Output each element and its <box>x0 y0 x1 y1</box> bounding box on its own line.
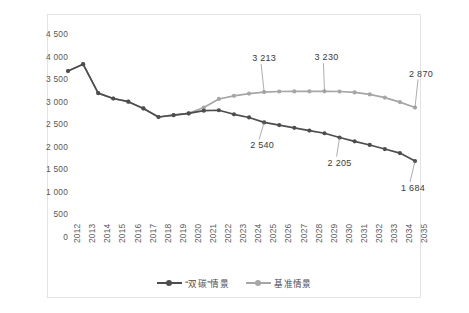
data-point-marker <box>111 96 115 100</box>
data-point-marker <box>232 112 236 116</box>
data-label: 2 205 <box>328 158 352 168</box>
data-point-marker <box>353 139 357 143</box>
data-point-marker <box>277 89 281 93</box>
data-point-marker <box>292 89 296 93</box>
legend-item[interactable]: 基准情景 <box>246 277 312 289</box>
annotation-leader-line <box>259 122 264 139</box>
chart-legend: “双碳”情景基准情景 <box>0 277 469 289</box>
data-point-marker <box>383 96 387 100</box>
annotation-leader-line <box>261 64 264 92</box>
series-dual-carbon <box>66 62 417 163</box>
data-point-marker <box>398 100 402 104</box>
series-line <box>68 64 415 117</box>
data-label: 2 540 <box>250 140 274 150</box>
data-point-marker <box>247 115 251 119</box>
legend-marker-icon <box>246 279 271 287</box>
data-point-marker <box>81 62 85 66</box>
legend-label: 基准情景 <box>274 277 312 289</box>
series-line <box>68 64 415 161</box>
line-chart: 4 5004 0003 5003 0002 5002 0001 5001 000… <box>0 0 469 313</box>
data-point-marker <box>307 89 311 93</box>
data-point-marker <box>398 151 402 155</box>
data-point-marker <box>368 143 372 147</box>
data-point-marker <box>96 91 100 95</box>
series-baseline <box>66 62 417 119</box>
data-point-marker <box>292 126 296 130</box>
plot-area <box>0 0 469 313</box>
data-label: 3 230 <box>314 52 338 62</box>
data-point-marker <box>126 100 130 104</box>
annotation-leader-line <box>323 63 324 91</box>
data-label: 3 213 <box>252 53 276 63</box>
data-label: 2 870 <box>409 69 433 79</box>
data-point-marker <box>247 91 251 95</box>
data-point-marker <box>322 131 326 135</box>
data-point-marker <box>337 89 341 93</box>
data-point-marker <box>217 97 221 101</box>
data-point-marker <box>141 106 145 110</box>
data-point-marker <box>187 111 191 115</box>
data-point-marker <box>66 69 70 73</box>
data-point-marker <box>232 94 236 98</box>
data-point-marker <box>368 92 372 96</box>
annotation-leader-line <box>410 161 415 182</box>
annotation-leader-line <box>337 138 340 157</box>
data-point-marker <box>277 123 281 127</box>
data-point-marker <box>353 90 357 94</box>
legend-marker-icon <box>157 279 182 287</box>
data-point-marker <box>383 147 387 151</box>
data-point-marker <box>156 115 160 119</box>
data-point-marker <box>172 113 176 117</box>
data-point-marker <box>307 128 311 132</box>
annotation-leader-line <box>415 80 418 108</box>
data-point-marker <box>217 108 221 112</box>
data-point-marker <box>202 109 206 113</box>
legend-item[interactable]: “双碳”情景 <box>157 277 229 289</box>
legend-label: “双碳”情景 <box>185 277 229 289</box>
data-label: 1 684 <box>401 183 425 193</box>
